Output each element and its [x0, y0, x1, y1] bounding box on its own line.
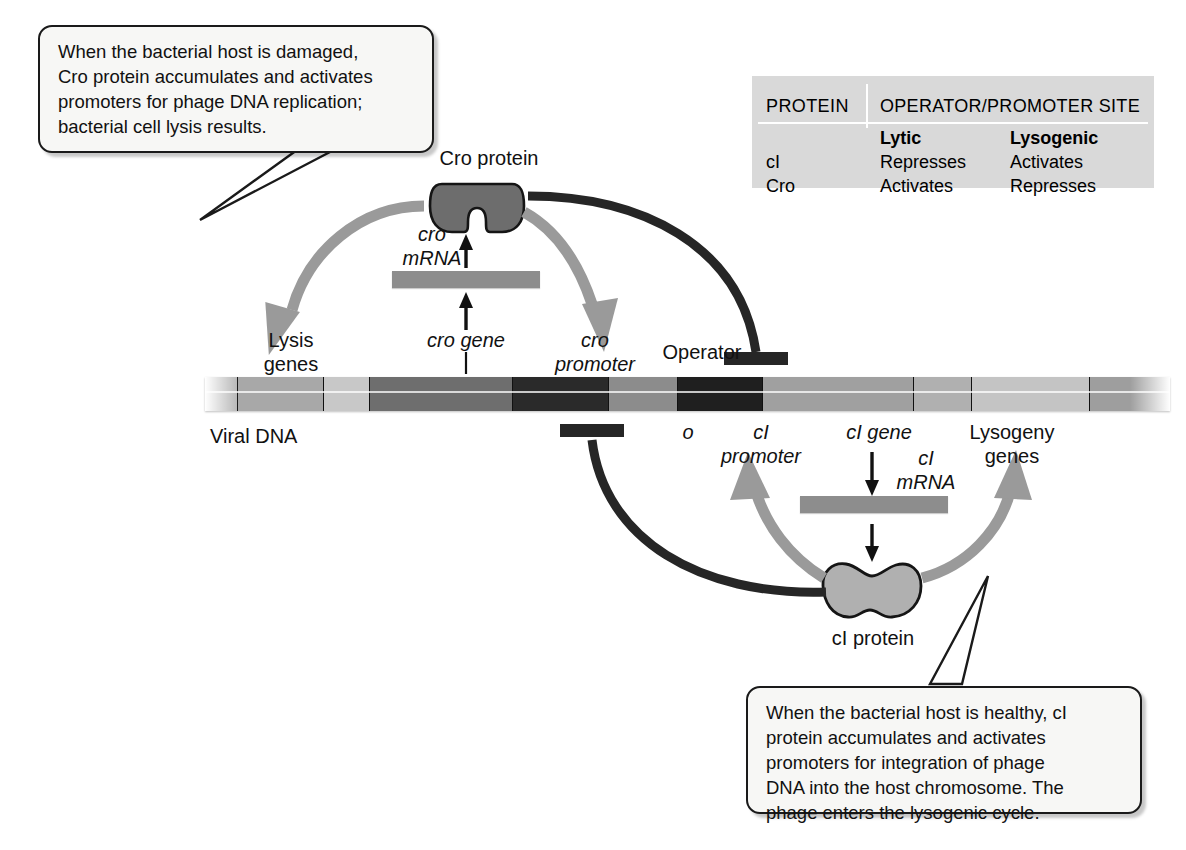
callout-lytic-text: When the bacterial host is damaged, Cro … — [58, 39, 416, 139]
table-header-protein: PROTEIN — [766, 96, 849, 117]
label-ci-promoter: cI promoter — [706, 420, 816, 468]
callout-lysogenic: When the bacterial host is healthy, cI p… — [746, 686, 1142, 814]
label-lysis-genes: Lysis genes — [236, 328, 346, 376]
table-header-divider — [758, 122, 1148, 124]
table-row-0-protein: cI — [766, 152, 780, 173]
protein-site-table: PROTEIN OPERATOR/PROMOTER SITE Lytic Lys… — [752, 76, 1154, 188]
callout-lytic: When the bacterial host is damaged, Cro … — [38, 25, 434, 153]
label-lysogeny-genes: Lysogeny genes — [948, 420, 1076, 468]
label-ci-gene: cI gene — [824, 420, 934, 444]
callout-top-tail — [200, 150, 330, 220]
arrow-ci-mrna-to-protein — [865, 524, 879, 562]
table-row-1-lytic: Activates — [880, 176, 953, 197]
label-ci-protein: cI protein — [788, 626, 958, 650]
table-row-1-protein: Cro — [766, 176, 795, 197]
label-operator: Operator — [644, 340, 760, 364]
table-row-0-lytic: Represses — [880, 152, 966, 173]
callout-lysogenic-text: When the bacterial host is healthy, cI p… — [766, 700, 1124, 825]
label-viral-dna: Viral DNA — [210, 424, 370, 448]
label-cro-protein: Cro protein — [404, 146, 574, 170]
label-cro-gene: cro gene — [404, 328, 528, 352]
label-cro-mrna: cro mRNA — [392, 222, 472, 270]
table-header-site: OPERATOR/PROMOTER SITE — [880, 96, 1140, 117]
diagram-canvas: Viral DNA Cro protein cI protein cro mRN… — [0, 0, 1186, 850]
arrow-ci-to-ci-promoter — [730, 452, 824, 578]
label-operator-o: o — [668, 420, 708, 444]
table-subheader-lysogenic: Lysogenic — [1010, 128, 1098, 149]
arrow-ci-gene-to-mrna — [865, 452, 879, 496]
label-cro-promoter: cro promoter — [540, 328, 650, 376]
table-row-0-lysogenic: Activates — [1010, 152, 1083, 173]
table-row-1-lysogenic: Represses — [1010, 176, 1096, 197]
table-subheader-lytic: Lytic — [880, 128, 921, 149]
arrow-cro-gene-to-mrna — [459, 292, 473, 330]
